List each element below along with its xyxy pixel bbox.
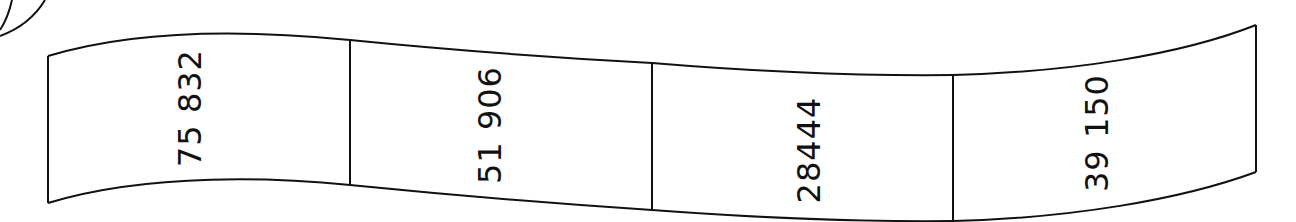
cell-number-3: 28444 bbox=[793, 97, 825, 204]
cell-number-1: 75 832 bbox=[174, 49, 206, 167]
decorative-arc-1 bbox=[0, 0, 12, 30]
cell-number-4: 39 150 bbox=[1081, 74, 1113, 192]
ribbon-banner-worksheet: 75 832 51 906 28444 39 150 bbox=[0, 0, 1296, 222]
cell-number-2: 51 906 bbox=[474, 66, 506, 184]
